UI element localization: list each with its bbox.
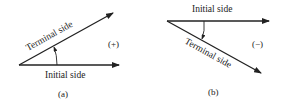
sign-positive-label: (+) [108,39,119,49]
rotation-arc-clockwise-icon [202,21,204,39]
sign-negative-label: (−) [252,39,263,49]
panel-b: Initial side Terminal side (−) (b) [167,4,269,97]
caption-b: (b) [208,87,219,97]
angle-diagram: Terminal side (+) Initial side (a) Initi… [0,0,283,104]
terminal-side-ray-b [167,21,261,73]
rotation-arc-counterclockwise-icon [54,47,57,65]
initial-side-label-b: Initial side [192,4,232,14]
panel-a: Terminal side (+) Initial side (a) [19,13,119,99]
initial-side-label-a: Initial side [45,70,85,80]
caption-a: (a) [58,89,68,99]
